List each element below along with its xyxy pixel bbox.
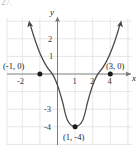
y-tick-label--3: -3 — [44, 105, 51, 114]
y-axis-label: y — [50, 8, 54, 17]
y-tick-label-2: 2 — [48, 35, 52, 44]
x-axis-label: x — [132, 74, 136, 83]
point-x-intercept-left — [37, 72, 42, 77]
y-tick-label-1: 1 — [49, 52, 53, 61]
point-vertex — [73, 124, 78, 129]
x-tick-label--2: -2 — [17, 77, 24, 86]
annotation-vertex: (1, -4) — [63, 133, 84, 142]
x-tick-label-4: 4 — [108, 77, 112, 86]
x-tick-label-2: 2 — [90, 77, 94, 86]
annotation-x-intercept-right: (3, 0) — [106, 62, 124, 71]
parabola-figure: 27. — [0, 0, 140, 155]
grid-horizontal-lines — [7, 21, 132, 144]
annotation-x-intercept-left: (-1, 0) — [3, 62, 24, 71]
x-tick-label-1: 1 — [73, 77, 77, 86]
y-tick-label--4: -4 — [44, 123, 51, 132]
